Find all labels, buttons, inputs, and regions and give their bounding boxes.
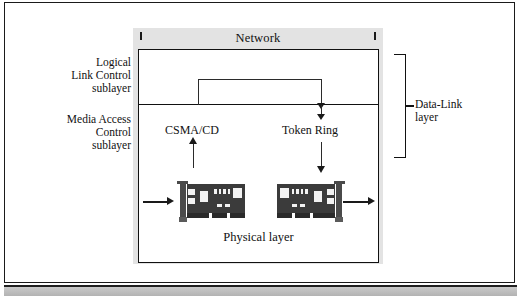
token-ring-label: Token Ring (263, 123, 357, 138)
llc-sublayer-label: Logical Link Control sublayer (39, 56, 131, 94)
nic-edge-notch (310, 213, 313, 218)
arrow-right-icon (343, 197, 377, 206)
arrow-down-icon (317, 114, 325, 120)
nic-edge-notch (227, 213, 230, 218)
nic-bracket-tab (334, 181, 345, 184)
nic-port (327, 198, 334, 204)
flow-out-head (368, 197, 375, 205)
nic-edge-connector (187, 213, 245, 218)
nic-bracket-foot (335, 217, 343, 222)
nic-chip (233, 188, 242, 198)
nic-component (223, 189, 226, 194)
nic-edge-notch (292, 213, 295, 218)
nic-component (306, 189, 309, 194)
mac-sublayer-label: Media Access Control sublayer (39, 113, 131, 151)
nic-component (297, 189, 300, 194)
nic-component (300, 204, 305, 207)
csma-cd-label: CSMA/CD (145, 123, 239, 138)
nic-component (228, 189, 231, 194)
nic-component (217, 204, 222, 207)
llc-connector-line (198, 79, 322, 105)
flow-in-head (167, 197, 174, 205)
nic-edge-notch (209, 213, 212, 218)
nic-component (292, 189, 295, 194)
nic-port (327, 189, 334, 195)
nic-bracket (180, 181, 186, 222)
data-link-layer-label: Data-Link layer (415, 98, 501, 124)
nic-component (219, 189, 222, 194)
physical-layer-label: Physical layer (138, 230, 379, 245)
flow-out-line (343, 201, 369, 203)
figure-frame: Network Logical Link Control sublayer Me… (4, 2, 515, 283)
nic-chip (314, 191, 322, 202)
flow-in-line (143, 201, 168, 203)
nic-port (188, 198, 195, 204)
network-band: Network (136, 30, 380, 49)
nic-component (214, 189, 217, 194)
arrow-right-icon (143, 197, 175, 206)
arrow-up-icon (189, 137, 197, 144)
data-link-bracket-stem (405, 105, 414, 107)
nic-component (225, 204, 230, 207)
nic-chip (280, 188, 289, 198)
network-interface-card-icon (177, 179, 249, 223)
nic-component (292, 204, 297, 207)
nic-component (301, 189, 304, 194)
nic-bracket (336, 181, 342, 222)
nic-chip (200, 191, 208, 202)
network-interface-card-icon (273, 179, 345, 223)
nic-bracket-foot (179, 217, 187, 222)
network-label: Network (136, 31, 380, 46)
csma-uplink-line (193, 142, 195, 168)
nic-port (188, 189, 195, 195)
token-ring-downlink-line (321, 142, 323, 168)
nic-edge-connector (277, 213, 335, 218)
arrow-down-icon (317, 166, 325, 173)
bottom-bar (4, 285, 517, 296)
